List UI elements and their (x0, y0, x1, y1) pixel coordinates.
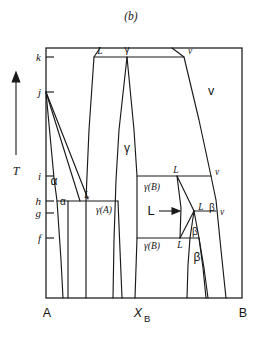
x-axis-label-A: A (43, 306, 52, 320)
phase-diagram-figure: (b) T k j i h g f (0, 0, 263, 340)
node-label-beta-f: β (192, 226, 198, 237)
temperature-axis-label: T (13, 164, 21, 178)
y-tick-label-h: h (36, 195, 42, 207)
node-label-alpha-h: α (60, 196, 66, 207)
phase-label-gamma: γ (124, 141, 130, 155)
node-label-v-i: v (215, 167, 220, 177)
y-tick-label-g: g (36, 207, 42, 219)
y-tick-label-k: k (36, 51, 42, 63)
gammaB-lower-right-boundary (199, 238, 206, 298)
x-axis-label-X: X (133, 306, 143, 320)
y-tick-label-i: i (38, 170, 41, 182)
node-label-gammaB-upper: γ(B) (144, 182, 160, 193)
node-label-L-h: L (83, 190, 89, 200)
node-label-gamma-apex: γ (125, 44, 130, 55)
x-axis-label-X-subscript: B (144, 313, 150, 324)
phase-label-liquid: L (147, 203, 154, 218)
phase-diagram-svg: (b) T k j i h g f (0, 0, 263, 340)
node-label-L-k: L (96, 46, 102, 56)
node-label-L-g: L (197, 202, 203, 212)
node-label-gammaB-lower: γ(B) (144, 241, 160, 252)
gammaA-right-boundary (118, 201, 122, 298)
gamma-lens-right (127, 57, 137, 298)
y-tick-marks (46, 57, 54, 238)
node-label-v-g: v (220, 207, 225, 217)
liquid-left-boundary (177, 176, 181, 238)
node-label-gammaA: γ(A) (96, 205, 112, 216)
node-label-beta-g: β (209, 202, 215, 213)
liquid-pointer-arrow (159, 208, 180, 214)
alpha-right-boundary (46, 92, 63, 298)
y-tick-label-j: j (36, 86, 41, 98)
node-label-L-i: L (172, 165, 178, 175)
temperature-axis-arrow (12, 72, 20, 155)
figure-title: (b) (124, 10, 138, 23)
phase-label-beta: β (194, 250, 201, 264)
phase-label-alpha: α (51, 174, 58, 188)
phase-label-vapour: v (208, 84, 215, 98)
y-tick-label-f: f (38, 232, 43, 244)
x-axis-label-B: B (239, 306, 247, 320)
node-label-L-f: L (176, 240, 182, 250)
gamma-left-liquidus (86, 48, 100, 298)
